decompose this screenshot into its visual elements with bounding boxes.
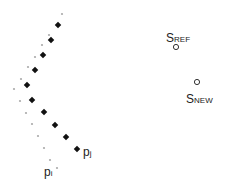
small-point — [49, 159, 51, 161]
pi-label: pi — [44, 162, 52, 180]
large-point — [55, 22, 62, 29]
large-point-series — [24, 22, 81, 153]
s-new-label: SNEW — [186, 89, 213, 107]
large-point — [41, 109, 48, 116]
pj-main: p — [83, 145, 90, 159]
small-point — [41, 44, 43, 46]
pj-label: pj — [83, 142, 91, 160]
s-new-sub: NEW — [194, 96, 213, 105]
large-point — [40, 52, 47, 59]
pi-main: p — [44, 165, 51, 179]
pi-sub: i — [51, 169, 53, 178]
small-point-series — [13, 13, 63, 169]
small-point — [27, 66, 29, 68]
large-point — [74, 146, 81, 153]
small-point — [19, 100, 21, 102]
small-point — [43, 147, 45, 149]
large-point — [29, 97, 36, 104]
large-point — [52, 122, 59, 129]
s-ref-label: SREF — [166, 28, 190, 46]
s-ref-main: S — [166, 31, 174, 45]
large-point — [24, 82, 31, 89]
small-point — [37, 135, 39, 137]
small-point — [61, 13, 63, 15]
small-point — [13, 88, 15, 90]
small-point — [34, 56, 36, 58]
s-new-main: S — [186, 92, 194, 106]
s-ref-sub: REF — [174, 35, 190, 44]
small-point — [20, 78, 22, 80]
small-point — [56, 167, 58, 169]
small-point — [31, 123, 33, 125]
large-point — [32, 67, 39, 74]
large-point — [48, 37, 55, 44]
small-point — [25, 112, 27, 114]
pj-sub: j — [90, 149, 92, 158]
small-point — [48, 34, 50, 36]
large-point — [63, 134, 70, 141]
s-new-circle-icon — [194, 79, 199, 84]
